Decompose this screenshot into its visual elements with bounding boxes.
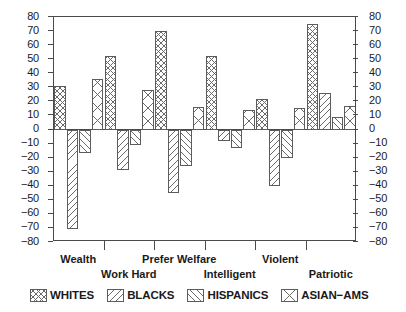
bar-chart: 80706050403020100−10−20−30−40−50−60−70−8… — [0, 0, 406, 312]
bar-wealth-whites — [54, 86, 66, 130]
y-axis-tick-left — [48, 58, 53, 59]
y-axis-tick-label-right: −20 — [369, 151, 387, 162]
y-axis-tick-right — [353, 114, 358, 115]
y-axis-tick-label-left: 40 — [27, 67, 39, 78]
bar-violent-asian-ams — [294, 108, 306, 129]
x-axis-label-wealth: Wealth — [28, 253, 128, 265]
legend-item-hispanics[interactable]: HISPANICS — [187, 289, 268, 302]
y-axis-tick-right — [353, 171, 358, 172]
bar-wealth-blacks — [67, 130, 79, 230]
legend-swatch-icon — [30, 289, 47, 302]
bar-intelligent-hispanics — [231, 130, 243, 148]
y-axis-tick-label-left: −50 — [21, 193, 39, 204]
y-axis-tick-label-left: 10 — [27, 109, 39, 120]
bar-intelligent-asian-ams — [243, 110, 255, 130]
y-axis-tick-label-left: 60 — [27, 39, 39, 50]
bar-patriotic-blacks — [319, 93, 331, 130]
legend-item-whites[interactable]: WHITES — [30, 289, 94, 302]
bar-prefer-welfare-hispanics — [180, 130, 192, 167]
y-axis-tick-label-right: 70 — [369, 25, 381, 36]
y-axis-tick-left — [48, 129, 53, 130]
y-axis-tick-right — [353, 72, 358, 73]
y-axis-tick-left — [48, 213, 53, 214]
legend-label: WHITES — [50, 289, 94, 301]
y-axis-tick-label-right: −80 — [369, 236, 387, 247]
y-axis-tick-right — [353, 241, 358, 242]
y-axis-tick-right — [353, 44, 358, 45]
bar-work-hard-whites — [105, 56, 117, 129]
bar-violent-blacks — [269, 130, 281, 186]
legend-label: BLACKS — [127, 289, 174, 301]
y-axis-tick-right — [353, 199, 358, 200]
x-axis-separator — [306, 241, 307, 250]
bar-wealth-asian-ams — [92, 79, 104, 130]
y-axis-tick-label-left: 30 — [27, 81, 39, 92]
y-axis-tick-label-right: 20 — [369, 95, 381, 106]
bar-violent-whites — [256, 99, 268, 130]
y-axis-tick-label-left: 70 — [27, 25, 39, 36]
bar-prefer-welfare-asian-ams — [193, 107, 205, 130]
x-axis-separator — [104, 241, 105, 250]
y-axis-tick-label-left: −30 — [21, 165, 39, 176]
y-axis-tick-left — [48, 143, 53, 144]
bar-patriotic-asian-ams — [344, 106, 356, 130]
y-axis-tick-right — [353, 16, 358, 17]
y-axis-right: 80706050403020100−10−20−30−40−50−60−70−8… — [360, 16, 400, 241]
y-axis-tick-label-right: −40 — [369, 179, 387, 190]
y-axis-tick-label-left: 20 — [27, 95, 39, 106]
bar-work-hard-hispanics — [130, 130, 142, 145]
bar-patriotic-whites — [307, 24, 319, 129]
y-axis-tick-right — [353, 185, 358, 186]
bar-violent-hispanics — [281, 130, 293, 158]
x-axis-label-patriotic: Patriotic — [281, 268, 381, 280]
y-axis-tick-label-left: −10 — [21, 137, 39, 148]
legend-swatch-icon — [281, 289, 298, 302]
y-axis-left: 80706050403020100−10−20−30−40−50−60−70−8… — [6, 16, 46, 241]
y-axis-tick-right — [353, 100, 358, 101]
y-axis-tick-right — [353, 157, 358, 158]
legend-item-blacks[interactable]: BLACKS — [107, 289, 174, 302]
chart-legend: WHITESBLACKSHISPANICSASIAN−AMS — [30, 286, 390, 304]
legend-swatch-icon — [187, 289, 204, 302]
y-axis-tick-label-left: −40 — [21, 179, 39, 190]
legend-item-asian-ams[interactable]: ASIAN−AMS — [281, 289, 368, 302]
y-axis-tick-label-left: −70 — [21, 221, 39, 232]
y-axis-tick-label-right: 10 — [369, 109, 381, 120]
y-axis-tick-label-right: 60 — [369, 39, 381, 50]
y-axis-tick-right — [353, 227, 358, 228]
y-axis-tick-label-right: 50 — [369, 53, 381, 64]
y-axis-tick-label-right: 40 — [369, 67, 381, 78]
x-axis-separator — [255, 241, 256, 250]
x-axis-label-violent: Violent — [230, 253, 330, 265]
y-axis-tick-label-right: 30 — [369, 81, 381, 92]
plot-area — [53, 16, 356, 241]
bar-prefer-welfare-whites — [155, 31, 167, 129]
y-axis-tick-right — [353, 143, 358, 144]
bar-work-hard-asian-ams — [142, 90, 154, 129]
y-axis-tick-label-right: −50 — [369, 193, 387, 204]
y-axis-tick-label-right: −70 — [369, 221, 387, 232]
y-axis-tick-label-right: −30 — [369, 165, 387, 176]
y-axis-tick-left — [48, 227, 53, 228]
y-axis-tick-label-left: −60 — [21, 207, 39, 218]
y-axis-tick-label-right: 80 — [369, 11, 381, 22]
y-axis-tick-label-right: −10 — [369, 137, 387, 148]
y-axis-tick-left — [48, 185, 53, 186]
y-axis-tick-label-left: −20 — [21, 151, 39, 162]
y-axis-tick-left — [48, 241, 53, 242]
bar-intelligent-whites — [206, 56, 218, 129]
y-axis-tick-left — [48, 157, 53, 158]
y-axis-tick-left — [48, 114, 53, 115]
y-axis-tick-left — [48, 199, 53, 200]
y-axis-tick-left — [48, 171, 53, 172]
x-axis-separator — [154, 241, 155, 250]
y-axis-tick-left — [48, 16, 53, 17]
y-axis-tick-left — [48, 72, 53, 73]
bar-patriotic-hispanics — [332, 117, 344, 130]
y-axis-tick-label-left: 50 — [27, 53, 39, 64]
bar-wealth-hispanics — [79, 130, 91, 154]
x-axis-label-prefer-welfare: Prefer Welfare — [129, 253, 229, 265]
y-axis-tick-right — [353, 213, 358, 214]
x-axis-label-intelligent: Intelligent — [180, 268, 280, 280]
y-axis-tick-label-right: −60 — [369, 207, 387, 218]
